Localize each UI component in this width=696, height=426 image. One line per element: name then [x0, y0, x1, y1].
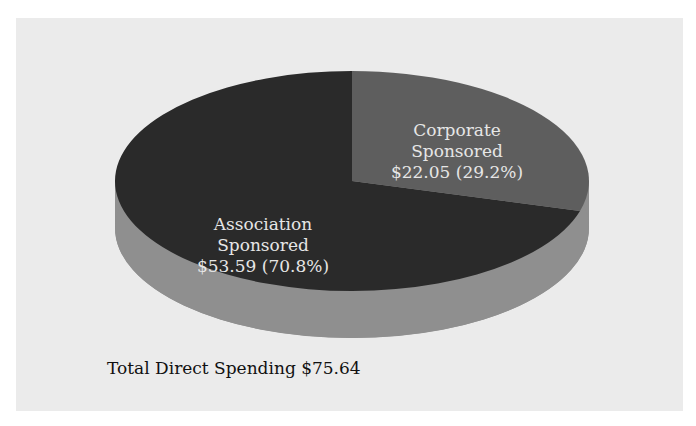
- label-corporate-sponsored: Corporate Sponsored $22.05 (29.2%): [372, 120, 542, 183]
- slice-label-line: Association: [178, 214, 348, 235]
- label-association-sponsored: Association Sponsored $53.59 (70.8%): [178, 214, 348, 277]
- slice-value: $53.59 (70.8%): [178, 256, 348, 277]
- total-direct-spending: Total Direct Spending $75.64: [107, 358, 361, 378]
- slice-label-line: Sponsored: [178, 235, 348, 256]
- slice-value: $22.05 (29.2%): [372, 162, 542, 183]
- slice-label-line: Sponsored: [372, 141, 542, 162]
- slice-label-line: Corporate: [372, 120, 542, 141]
